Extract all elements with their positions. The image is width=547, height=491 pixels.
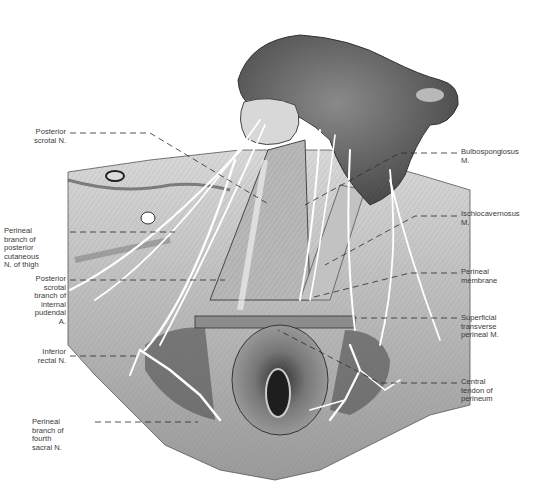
label-posterior-scrotal-branch-internal-pudendal-a: Posterior scrotal branch of internal pud…	[4, 275, 66, 327]
label-bulbospongiosus-m: Bulbospongiosus M.	[461, 148, 519, 165]
label-perineal-membrane: Perineal membrane	[461, 268, 497, 285]
label-ischiocavernosus-m: Ischiocavernosus M.	[461, 210, 520, 227]
label-perineal-branch-posterior-cutaneous-n-thigh: Perineal branch of posterior cutaneous N…	[4, 227, 68, 270]
label-posterior-scrotal-n: Posterior scrotal N.	[4, 128, 66, 145]
label-superficial-transverse-perineal-m: Superficial transverse perineal M.	[461, 314, 499, 340]
label-perineal-branch-fourth-sacral-n: Perineal branch of fourth sacral N.	[32, 418, 92, 452]
anus	[232, 325, 328, 435]
label-central-tendon-perineum: Central tendon of perineum	[461, 378, 493, 404]
label-inferior-rectal-n: Inferior rectal N.	[4, 348, 66, 365]
